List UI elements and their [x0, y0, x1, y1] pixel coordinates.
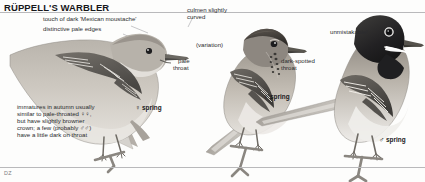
- page-title: RÜPPELL'S WARBLER: [4, 2, 109, 13]
- annotation-culmen-line2: curved: [187, 13, 205, 20]
- annotation-pale-edges: distinctive pale edges: [43, 25, 101, 32]
- bird-figure-female-middle: [206, 29, 307, 176]
- perch-twig-left: [95, 152, 124, 172]
- field-guide-plate: RÜPPELL'S WARBLER touch of dark 'Mexican…: [0, 0, 425, 182]
- figure-label-female-spring-middle: ♀ spring: [263, 93, 290, 100]
- annotation-dark-spotted-line2: throat: [281, 64, 297, 71]
- perch-twig-right: [345, 156, 382, 181]
- figure-label-female-spring-left: ♀ spring: [135, 104, 162, 111]
- figure-label-text: spring: [142, 104, 162, 111]
- artist-signature: DZ: [4, 170, 12, 176]
- annotation-moustache: touch of dark 'Mexican moustache': [43, 15, 136, 22]
- annotation-variation: (variation): [196, 41, 223, 48]
- bottom-rule: [0, 167, 425, 168]
- perch-twig-middle: [231, 146, 262, 176]
- annotation-pale-throat-line2: throat: [173, 64, 189, 71]
- figure-label-text: spring: [386, 136, 406, 143]
- figure-label-male-spring-right: ♂ spring: [379, 136, 406, 143]
- annotation-unmistakable: unmistakable!: [330, 28, 368, 35]
- female-symbol-icon: ♀: [135, 104, 140, 111]
- male-symbol-icon: ♂: [379, 136, 384, 143]
- immature-note-line5: have a little dark on throat: [17, 131, 87, 138]
- figure-label-text: spring: [270, 93, 290, 100]
- female-symbol-icon: ♀: [263, 93, 268, 100]
